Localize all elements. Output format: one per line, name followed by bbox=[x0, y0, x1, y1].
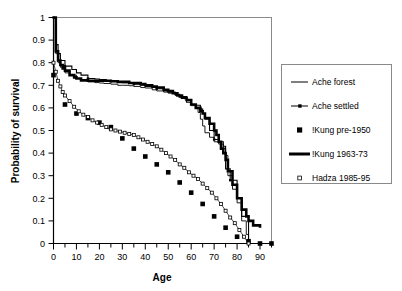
series-marker bbox=[192, 174, 195, 177]
series-marker bbox=[201, 182, 204, 185]
series-marker bbox=[96, 121, 99, 124]
y-tick-label: 0.2 bbox=[32, 194, 45, 204]
series-marker bbox=[137, 136, 140, 139]
series-marker bbox=[178, 163, 181, 166]
y-axis-ticks bbox=[49, 18, 54, 244]
series-marker bbox=[200, 202, 205, 207]
y-tick-label: 0.1 bbox=[32, 216, 45, 226]
y-axis-tick-labels: 00.10.20.30.40.50.60.70.80.91 bbox=[32, 13, 45, 249]
series-marker bbox=[247, 242, 250, 245]
x-axis-tick-labels: 0102030405060708090 bbox=[51, 252, 265, 262]
series-marker bbox=[63, 102, 68, 107]
series-marker bbox=[59, 85, 62, 88]
series-marker bbox=[146, 140, 149, 143]
series-marker bbox=[91, 119, 94, 122]
x-tick-label: 40 bbox=[140, 252, 150, 262]
series-marker bbox=[77, 110, 80, 113]
series-marker bbox=[123, 131, 126, 134]
x-tick-label: 10 bbox=[71, 252, 81, 262]
series-marker bbox=[215, 197, 218, 200]
series-marker bbox=[212, 214, 217, 219]
series-marker bbox=[52, 61, 55, 64]
series-marker bbox=[220, 202, 223, 205]
x-tick-label: 90 bbox=[255, 252, 265, 262]
x-axis-ticks bbox=[54, 244, 272, 250]
legend: Ache forestAche settled!Kung pre-1950!Ku… bbox=[282, 65, 392, 184]
series-hadza-1985-95 bbox=[52, 61, 250, 245]
y-tick-label: 0.8 bbox=[32, 58, 45, 68]
y-tick-label: 0 bbox=[40, 239, 45, 249]
series-marker bbox=[155, 145, 158, 148]
legend-label-ache-forest: Ache forest bbox=[312, 77, 356, 87]
series-marker bbox=[82, 113, 85, 116]
series-marker bbox=[119, 130, 122, 133]
series-marker bbox=[169, 155, 172, 158]
series-marker bbox=[238, 228, 241, 231]
survival-curve-figure: 00.10.20.30.40.50.60.70.80.91 0102030405… bbox=[0, 0, 402, 291]
series-marker bbox=[224, 209, 227, 212]
series-line bbox=[54, 63, 249, 244]
series-marker bbox=[141, 138, 144, 141]
series-marker bbox=[166, 170, 171, 175]
x-tick-label: 80 bbox=[232, 252, 242, 262]
series-kung-1963-73 bbox=[54, 18, 261, 228]
chart-canvas: 00.10.20.30.40.50.60.70.80.91 0102030405… bbox=[0, 0, 402, 291]
series-line bbox=[54, 18, 249, 244]
series-marker bbox=[86, 115, 89, 118]
series-marker bbox=[223, 225, 228, 230]
series-marker bbox=[183, 166, 186, 169]
series-marker bbox=[187, 171, 190, 174]
series-line bbox=[54, 18, 261, 228]
series-marker bbox=[210, 191, 213, 194]
series-marker bbox=[132, 134, 135, 137]
series-marker bbox=[164, 152, 167, 155]
x-axis: 0102030405060708090 bbox=[51, 244, 272, 263]
series-kung-pre-1950 bbox=[51, 73, 274, 246]
series-marker bbox=[128, 132, 131, 135]
series-marker bbox=[197, 178, 200, 181]
series-marker bbox=[105, 126, 108, 129]
x-tick-label: 50 bbox=[163, 252, 173, 262]
legend-swatch-open-square bbox=[298, 176, 302, 180]
series-marker bbox=[174, 158, 177, 161]
y-tick-label: 1 bbox=[40, 13, 45, 23]
series-ache-forest bbox=[54, 18, 249, 244]
x-tick-label: 60 bbox=[186, 252, 196, 262]
series-marker bbox=[233, 222, 236, 225]
series-marker bbox=[57, 79, 60, 82]
series-marker bbox=[54, 70, 57, 73]
series-marker bbox=[154, 162, 159, 167]
series-marker bbox=[235, 234, 240, 239]
series-marker bbox=[114, 129, 117, 132]
series-ache-settled bbox=[52, 16, 248, 243]
series-line bbox=[54, 18, 249, 244]
series-marker bbox=[229, 179, 231, 181]
series-marker bbox=[73, 105, 76, 108]
series-marker bbox=[61, 91, 64, 94]
y-axis: 00.10.20.30.40.50.60.70.80.91 bbox=[32, 13, 53, 249]
series-marker bbox=[120, 136, 125, 141]
series-marker bbox=[177, 180, 182, 185]
x-tick-label: 0 bbox=[51, 252, 56, 262]
series-marker bbox=[160, 148, 163, 151]
legend-swatch-filled-square bbox=[297, 127, 302, 132]
legend-label-kung-1963-73: !Kung 1963-73 bbox=[312, 149, 368, 159]
y-axis-title: Probability of survival bbox=[10, 79, 21, 184]
y-tick-label: 0.3 bbox=[32, 171, 45, 181]
legend-label-ache-settled: Ache settled bbox=[312, 101, 359, 111]
legend-label-kung-pre-1950: !Kung pre-1950 bbox=[312, 125, 371, 135]
y-tick-label: 0.4 bbox=[32, 148, 45, 158]
series-marker bbox=[206, 187, 209, 190]
legend-swatch-marker bbox=[298, 104, 301, 107]
legend-label-hadza-1985-95: Hadza 1985-95 bbox=[312, 173, 370, 183]
series-marker bbox=[143, 154, 148, 159]
y-tick-label: 0.9 bbox=[32, 35, 45, 45]
series-marker bbox=[68, 100, 71, 103]
series-marker bbox=[258, 241, 263, 246]
x-axis-title: Age bbox=[153, 272, 172, 283]
y-tick-label: 0.5 bbox=[32, 126, 45, 136]
y-tick-label: 0.6 bbox=[32, 103, 45, 113]
plot-frame bbox=[53, 18, 272, 244]
series-marker bbox=[132, 146, 137, 151]
x-tick-label: 20 bbox=[94, 252, 104, 262]
